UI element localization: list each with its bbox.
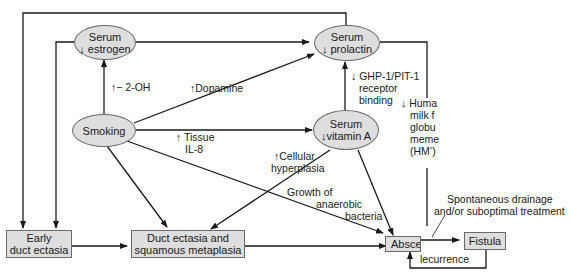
label-growth-2: anaerobic (316, 198, 362, 210)
label-spontaneous-2: and/or suboptimal treatment (434, 205, 565, 217)
abscess-label: Absce (391, 238, 421, 250)
label-hmfg-3: globu (410, 121, 436, 133)
duct-ectasia-line2: squamous metaplasia (134, 244, 241, 256)
label-hmfg-5: (HM’) (410, 145, 436, 157)
node-serum-estrogen: Serum ↓ estrogen (74, 25, 136, 60)
label-recurrence: lecurrence (420, 253, 469, 265)
early-duct-ectasia-line2: duct ectasia (10, 244, 69, 256)
label-cellular-1: ↑Cellular (274, 150, 315, 162)
serum-estrogen-line1: Serum (89, 31, 121, 43)
node-early-duct-ectasia: Early duct ectasia (6, 230, 72, 258)
node-fistula: Fistula (464, 232, 506, 250)
serum-vitamin-a-line2: ↓vitamin A (321, 130, 371, 142)
node-abscess: Absce (385, 236, 421, 252)
serum-estrogen-line2: ↓ estrogen (79, 43, 130, 55)
node-smoking: Smoking (72, 114, 136, 147)
label-ghp-2: receptor (359, 82, 398, 94)
label-spontaneous-1: Spontaneous drainage (447, 193, 553, 205)
fistula-label: Fistula (469, 235, 501, 247)
label-tissue-il8-2: IL-8 (185, 143, 203, 155)
label-growth-1: Growth of (287, 186, 333, 198)
label-ghp-3: binding (359, 94, 393, 106)
node-serum-prolactin: Serum ↓ prolactin (314, 25, 380, 61)
label-dopamine: ↑Dopamine (190, 82, 243, 94)
serum-vitamin-a-line1: Serum (330, 118, 362, 130)
label-hmfg-1: ↓ Huma (401, 97, 437, 109)
label-cellular-2: hyperplasia (271, 162, 325, 174)
smoking-label: Smoking (83, 125, 126, 137)
node-serum-vitamin-a: Serum ↓vitamin A (313, 110, 379, 150)
serum-prolactin-line2: ↓ prolactin (322, 43, 372, 55)
label-hmfg-2: milk f (410, 109, 435, 121)
duct-ectasia-line1: Duct ectasia and (147, 232, 229, 244)
serum-prolactin-line1: Serum (331, 31, 363, 43)
label-tissue-il8-1: ↑ Tissue (176, 131, 215, 143)
node-duct-ectasia-squamous-metaplasia: Duct ectasia and squamous metaplasia (131, 230, 245, 258)
label-hmfg-4: meme (410, 133, 439, 145)
label-2-oh: ↑− 2-OH (111, 81, 150, 93)
label-ghp-1: ↓ GHP-1/PIT-1 (351, 70, 419, 82)
early-duct-ectasia-line1: Early (26, 232, 51, 244)
label-growth-3: bacteria (345, 210, 382, 222)
